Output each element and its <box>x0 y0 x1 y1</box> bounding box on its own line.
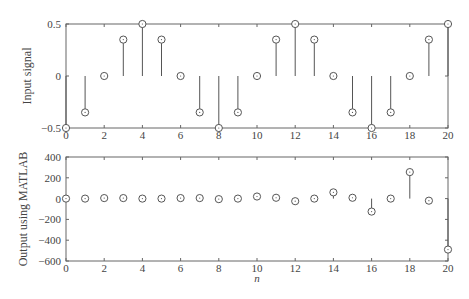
stem-point <box>368 199 375 216</box>
stem-point <box>120 36 127 76</box>
stem-point <box>82 76 89 116</box>
y-tick-label: 0 <box>56 70 62 82</box>
stem-point <box>292 20 299 76</box>
output-plot: 02468101214161820−600−400−2000200400 <box>38 151 454 274</box>
y-tick-label: 0 <box>56 193 62 205</box>
stem-point <box>139 20 146 76</box>
x-tick-label: 14 <box>328 129 340 141</box>
stem-point <box>406 72 413 79</box>
stem-point <box>425 197 432 204</box>
stem-point <box>292 198 299 205</box>
stem-point <box>196 76 203 116</box>
stem-point <box>234 76 241 116</box>
x-tick-label: 18 <box>404 129 416 141</box>
x-tick-label: 4 <box>140 129 146 141</box>
bottom-xlabel: n <box>254 272 260 284</box>
stem-point <box>444 199 451 254</box>
y-tick-label: 200 <box>45 172 62 184</box>
stem-point <box>368 76 375 132</box>
stem-point <box>215 196 222 203</box>
stem-point <box>101 194 108 201</box>
stem-point <box>101 72 108 79</box>
stem-point <box>273 194 280 201</box>
y-tick-label: −0.5 <box>41 122 61 134</box>
stem-point <box>349 76 356 116</box>
x-tick-label: 4 <box>140 262 146 274</box>
x-tick-label: 8 <box>216 262 222 274</box>
x-tick-label: 14 <box>328 262 340 274</box>
y-tick-label: 0.5 <box>47 18 61 30</box>
x-tick-label: 10 <box>252 129 264 141</box>
x-tick-label: 12 <box>290 262 301 274</box>
plot-frame <box>66 157 448 261</box>
stem-point <box>330 72 337 79</box>
y-tick-label: −200 <box>38 213 61 225</box>
input-signal-plot: 02468101214161820−0.500.5 <box>41 18 454 141</box>
stem-point <box>62 76 69 132</box>
x-tick-label: 0 <box>63 262 69 274</box>
stem-point <box>82 195 89 202</box>
x-tick-label: 18 <box>404 262 416 274</box>
x-tick-label: 12 <box>290 129 301 141</box>
stem-point <box>387 195 394 202</box>
x-tick-label: 6 <box>178 129 184 141</box>
stem-point <box>330 189 337 199</box>
stem-point <box>253 72 260 79</box>
stem-point <box>62 195 69 202</box>
y-tick-label: −600 <box>38 255 61 267</box>
stem-point <box>311 195 318 202</box>
stem-point <box>234 195 241 202</box>
x-tick-label: 20 <box>443 262 455 274</box>
bottom-ylabel: Output using MATLAB <box>16 152 30 267</box>
stem-point <box>253 193 260 200</box>
stem-point <box>215 76 222 132</box>
stem-point <box>273 36 280 76</box>
stem-point <box>120 194 127 201</box>
stem-point <box>158 36 165 76</box>
y-tick-label: −400 <box>38 234 61 246</box>
stem-point <box>349 194 356 201</box>
stem-point <box>158 195 165 202</box>
stem-plot-figure: 02468101214161820−0.500.5 02468101214161… <box>0 0 469 299</box>
x-tick-label: 2 <box>101 262 107 274</box>
stem-point <box>444 20 451 76</box>
stem-point <box>406 168 413 198</box>
stem-point <box>177 72 184 79</box>
stem-point <box>196 194 203 201</box>
stem-point <box>139 195 146 202</box>
stem-point <box>425 36 432 76</box>
top-ylabel: Input signal <box>20 47 34 105</box>
x-tick-label: 2 <box>101 129 107 141</box>
stem-point <box>387 76 394 116</box>
stem-point <box>311 36 318 76</box>
x-tick-label: 6 <box>178 262 184 274</box>
stem-point <box>177 194 184 201</box>
x-tick-label: 16 <box>366 262 378 274</box>
y-tick-label: 400 <box>45 151 62 163</box>
x-tick-label: 20 <box>443 129 455 141</box>
